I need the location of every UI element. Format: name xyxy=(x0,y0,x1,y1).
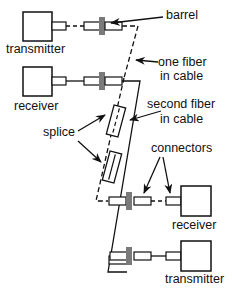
connector-arrow-left xyxy=(144,157,160,193)
label-barrel: barrel xyxy=(166,9,198,22)
splice-arrow-upper xyxy=(78,115,105,131)
connector-arrow-right xyxy=(163,157,170,193)
label-one-fiber-line1: one fiber xyxy=(158,56,207,69)
receiver-bottom-box xyxy=(166,186,211,216)
label-transmitter-bottom: transmitter xyxy=(165,273,224,286)
label-connectors: connectors xyxy=(151,142,212,155)
label-one-fiber-line2: in cable xyxy=(160,70,203,83)
connector-pair-receiver-top xyxy=(84,72,122,90)
label-second-fiber-line1: second fiber xyxy=(147,98,215,111)
transmitter-bottom-box xyxy=(166,241,211,271)
splice-arrow-lower xyxy=(78,141,101,162)
one-fiber-arrow xyxy=(136,60,158,62)
receiver-top-box xyxy=(23,67,66,96)
connector-pair-receiver-bottom xyxy=(109,192,151,210)
transmitter-top-box xyxy=(23,12,66,41)
connector-pair-top xyxy=(84,17,122,35)
splice-lower xyxy=(102,151,121,183)
barrel-icon xyxy=(99,17,105,35)
label-receiver-top: receiver xyxy=(14,100,58,113)
label-second-fiber-line2: in cable xyxy=(160,113,203,126)
label-splice: splice xyxy=(43,126,75,139)
splice-upper xyxy=(106,105,125,137)
label-receiver-bottom: receiver xyxy=(172,219,216,232)
label-transmitter-top: transmitter xyxy=(6,43,65,56)
barrel-arrow xyxy=(111,17,163,23)
